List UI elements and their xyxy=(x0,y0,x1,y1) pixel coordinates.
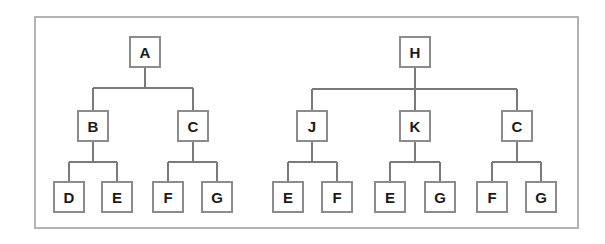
node-label: J xyxy=(308,118,316,135)
node-label: K xyxy=(410,118,421,135)
tree-node-e: E xyxy=(273,182,303,212)
node-label: E xyxy=(112,189,122,206)
tree-node-k: K xyxy=(400,111,430,141)
diagram-canvas: ABCDEFGHJKCEFEGFG xyxy=(0,0,605,244)
tree-node-f: F xyxy=(477,182,507,212)
node-label: C xyxy=(188,118,199,135)
node-label: G xyxy=(434,189,446,206)
tree-node-a: A xyxy=(130,37,160,67)
tree-node-e: E xyxy=(102,182,132,212)
tree-node-g: G xyxy=(526,182,556,212)
tree-node-f: F xyxy=(322,182,352,212)
tree-node-j: J xyxy=(297,111,327,141)
node-label: E xyxy=(283,189,293,206)
tree-node-d: D xyxy=(54,182,84,212)
tree-diagram-figure: ABCDEFGHJKCEFEGFG xyxy=(0,0,605,244)
node-label: G xyxy=(535,189,547,206)
tree-node-e: E xyxy=(375,182,405,212)
node-label: F xyxy=(487,189,496,206)
node-label: A xyxy=(140,44,151,61)
node-label: C xyxy=(512,118,523,135)
node-label: F xyxy=(332,189,341,206)
tree-node-c: C xyxy=(502,111,532,141)
tree-node-f: F xyxy=(153,182,183,212)
node-label: G xyxy=(211,189,223,206)
node-label: D xyxy=(64,189,75,206)
node-label: E xyxy=(385,189,395,206)
tree-node-b: B xyxy=(78,111,108,141)
tree-node-c: C xyxy=(178,111,208,141)
tree-node-g: G xyxy=(425,182,455,212)
tree-node-g: G xyxy=(202,182,232,212)
node-label: H xyxy=(410,44,421,61)
node-label: B xyxy=(88,118,99,135)
tree-node-h: H xyxy=(400,37,430,67)
node-label: F xyxy=(163,189,172,206)
